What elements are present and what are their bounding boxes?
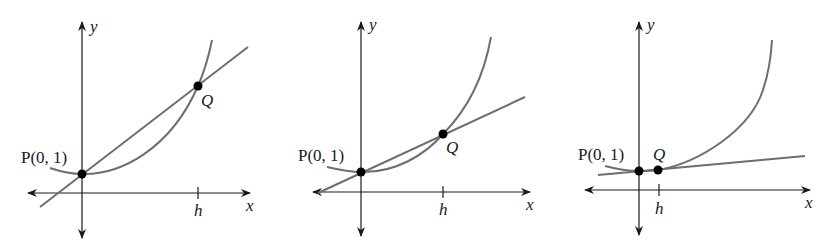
x-axis-label: x bbox=[245, 196, 254, 215]
y-axis-label: y bbox=[645, 15, 655, 34]
point-p-label: P(0, 1) bbox=[578, 145, 624, 164]
exponential-curve bbox=[605, 40, 772, 171]
point-p-label: P(0, 1) bbox=[298, 146, 344, 165]
x-axis-label: x bbox=[804, 193, 813, 212]
y-axis-label: y bbox=[367, 15, 377, 34]
point-q-label: Q bbox=[201, 91, 213, 110]
secant-line bbox=[598, 156, 805, 175]
point-q-label: Q bbox=[446, 138, 458, 157]
tick-label-h: h bbox=[439, 200, 448, 219]
secant-line bbox=[318, 97, 525, 193]
exponential-curve bbox=[50, 40, 212, 174]
secant-lines-figure: y x h Q P(0, 1) y x h Q P(0, 1) y x bbox=[0, 0, 839, 245]
panel-3: y x h Q P(0, 1) bbox=[578, 15, 813, 235]
point-p bbox=[357, 168, 366, 177]
panel-2: y x h Q P(0, 1) bbox=[298, 15, 534, 236]
secant-line bbox=[40, 47, 248, 207]
tick-label-h: h bbox=[655, 199, 664, 218]
panel-1: y x h Q P(0, 1) bbox=[21, 17, 254, 238]
point-q bbox=[194, 82, 203, 91]
x-axis-label: x bbox=[525, 195, 534, 214]
point-p bbox=[78, 170, 87, 179]
point-p bbox=[635, 167, 644, 176]
tick-label-h: h bbox=[194, 201, 203, 220]
y-axis-label: y bbox=[88, 17, 98, 36]
point-q-label: Q bbox=[653, 145, 665, 164]
point-q bbox=[654, 166, 663, 175]
point-p-label: P(0, 1) bbox=[21, 148, 67, 167]
